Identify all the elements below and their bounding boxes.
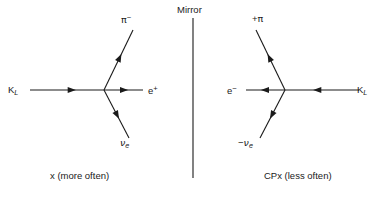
left-incoming-kaon-arrowhead bbox=[68, 87, 76, 93]
figure-lines bbox=[0, 0, 387, 197]
right-incoming-kaon-arrowhead bbox=[313, 87, 321, 93]
left-outgoing-neutrino-label: νe bbox=[120, 138, 129, 149]
right-outgoing-pion-label: +π bbox=[252, 14, 263, 24]
right-incoming-kaon-label: KL bbox=[357, 85, 367, 96]
caption-left-panel: x (more often) bbox=[50, 170, 109, 181]
left-outgoing-pion-arrowhead bbox=[115, 54, 121, 63]
right-outgoing-electron-label: e− bbox=[227, 85, 237, 96]
caption-left-text: (more often) bbox=[55, 170, 109, 181]
mirror-label: Mirror bbox=[177, 4, 202, 15]
caption-right-operator: CP bbox=[264, 170, 277, 181]
right-outgoing-antineutrino-label: −νe bbox=[238, 138, 253, 149]
right-outgoing-pion-arrowhead bbox=[268, 54, 274, 63]
left-outgoing-positron-label: e+ bbox=[148, 85, 158, 96]
caption-right-text: (less often) bbox=[282, 170, 332, 181]
right-outgoing-antineutrino-arrowhead bbox=[270, 110, 277, 119]
cp-violation-figure: KLπ−e+νeKL+πe−−νe Mirror x (more often) … bbox=[0, 0, 387, 197]
caption-right-panel: CPx (less often) bbox=[264, 170, 332, 181]
left-outgoing-positron-arrowhead bbox=[120, 87, 128, 93]
left-incoming-kaon-label: KL bbox=[8, 85, 18, 96]
right-outgoing-electron-arrowhead bbox=[261, 87, 269, 93]
particle-lines-layer bbox=[30, 30, 359, 138]
left-outgoing-neutrino-arrowhead bbox=[112, 110, 119, 119]
left-outgoing-pion-label: π− bbox=[121, 14, 131, 25]
